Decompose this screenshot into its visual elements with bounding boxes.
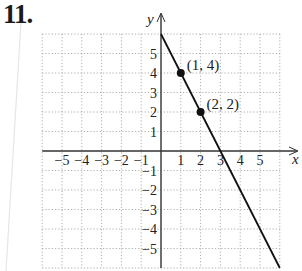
y-tick-label: −4 xyxy=(142,222,157,237)
x-tick-label: 5 xyxy=(257,153,264,168)
y-tick-label: 3 xyxy=(150,86,157,101)
x-tick-label: −3 xyxy=(94,153,109,168)
x-tick-label: −2 xyxy=(114,153,129,168)
y-tick-label: −2 xyxy=(142,183,157,198)
x-tick-label: 1 xyxy=(177,153,184,168)
y-tick-label: 4 xyxy=(150,66,157,81)
x-tick-label: 4 xyxy=(237,153,244,168)
point-label: (1, 4) xyxy=(187,57,220,74)
point-marker xyxy=(197,108,205,116)
x-axis-label: x xyxy=(291,151,299,167)
point-marker xyxy=(177,69,185,77)
x-tick-label: 2 xyxy=(197,153,204,168)
y-tick-label: −5 xyxy=(142,242,157,257)
x-tick-label: −5 xyxy=(55,153,70,168)
y-tick-label: 1 xyxy=(150,125,157,140)
point-label: (2, 2) xyxy=(207,96,240,113)
y-tick-label: 5 xyxy=(150,47,157,62)
coordinate-graph: xy −5−4−3−2−11234554321−1−2−3−4−5 (1, 4)… xyxy=(0,0,302,271)
y-tick-label: 2 xyxy=(150,105,157,120)
y-tick-label: −3 xyxy=(142,203,157,218)
x-tick-label: −4 xyxy=(74,153,89,168)
plotted-points: (1, 4)(2, 2) xyxy=(177,57,239,116)
y-axis-label: y xyxy=(145,11,154,27)
y-tick-label: −1 xyxy=(142,164,157,179)
